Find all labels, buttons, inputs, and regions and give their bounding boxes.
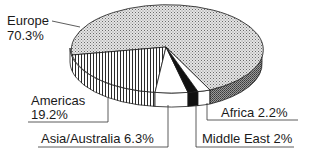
middle-east-side [188, 92, 198, 107]
label-europe-name: Europe [7, 13, 49, 28]
label-americas-pct: 19.2% [31, 107, 68, 122]
pie-top [71, 5, 263, 93]
label-americas-name: Americas [31, 93, 85, 108]
europe-leader [52, 21, 80, 27]
africa-side [198, 90, 210, 106]
label-europe-pct: 70.3% [7, 28, 44, 43]
label-middle-east: Middle East 2% [202, 131, 292, 146]
label-asia: Asia/Australia 6.3% [41, 131, 154, 146]
label-africa: Africa 2.2% [221, 105, 287, 120]
asia-side [155, 92, 188, 107]
